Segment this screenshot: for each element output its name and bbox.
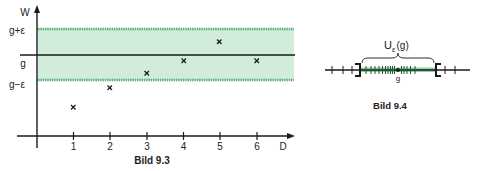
figure-9-4: Uε(g) g Bild 9.4 bbox=[325, 39, 470, 111]
neighborhood-brace-icon bbox=[362, 53, 434, 63]
x-tick-label: 4 bbox=[181, 141, 187, 152]
center-label-g: g bbox=[396, 74, 400, 83]
data-point-marker-icon bbox=[71, 105, 76, 110]
figures-canvas: 1 2 3 4 5 6 D W g+ε g g−ε Bild 9.3 bbox=[0, 0, 481, 171]
band-upper-label: g+ε bbox=[9, 25, 25, 36]
band-lower-label: g−ε bbox=[9, 79, 25, 90]
x-tick-label: 1 bbox=[71, 141, 77, 152]
x-tick-label: 2 bbox=[107, 141, 113, 152]
x-tick-label: 6 bbox=[254, 141, 260, 152]
neighborhood-label: Uε(g) bbox=[384, 39, 409, 54]
y-axis-arrow-icon bbox=[34, 5, 40, 13]
caption-bild-9-4: Bild 9.4 bbox=[373, 100, 408, 111]
x-tick-label: 5 bbox=[217, 141, 223, 152]
figure-9-3: 1 2 3 4 5 6 D W g+ε g g−ε Bild 9.3 bbox=[9, 5, 295, 166]
x-axis-label: D bbox=[279, 141, 286, 152]
data-point-marker-icon bbox=[108, 86, 113, 91]
x-axis-arrow-icon bbox=[287, 133, 295, 139]
limit-point-g bbox=[396, 68, 400, 72]
caption-bild-9-3: Bild 9.3 bbox=[134, 155, 170, 166]
band-center-label: g bbox=[20, 58, 26, 69]
x-tick-label: 3 bbox=[144, 141, 150, 152]
y-axis-label: W bbox=[20, 7, 30, 18]
